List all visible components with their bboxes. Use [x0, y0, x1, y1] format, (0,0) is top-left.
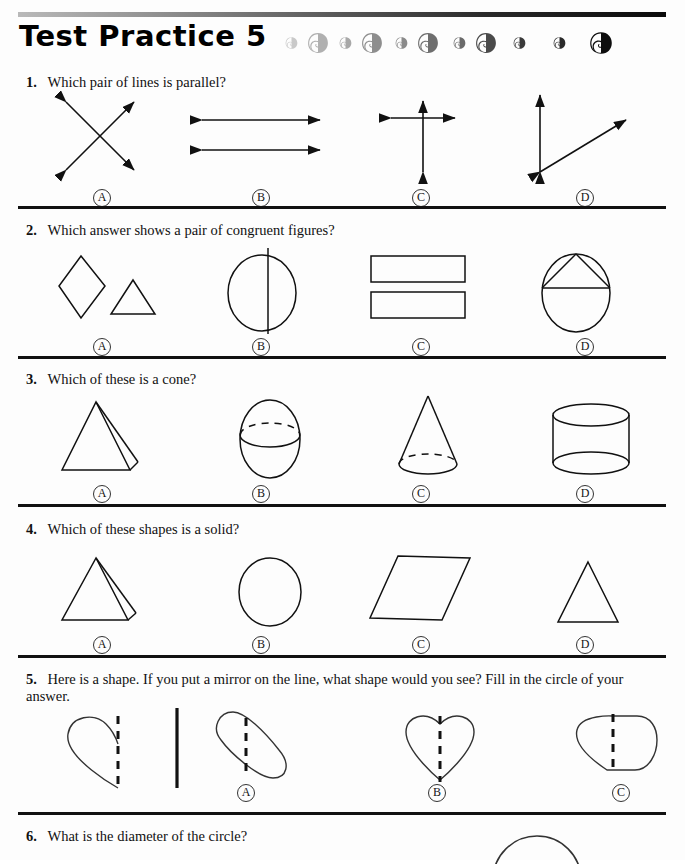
q4-choice-c-label[interactable]: C — [411, 635, 431, 652]
question-2-number: 2. — [26, 222, 37, 238]
q2-choice-c-label[interactable]: C — [411, 337, 431, 354]
question-2-text: 2. Which answer shows a pair of congruen… — [26, 222, 626, 239]
question-5-text: 5. Here is a shape. If you put a mirror … — [26, 671, 664, 705]
q3-choice-a-figure — [58, 400, 148, 478]
spiral-shell-icon — [513, 37, 526, 50]
q1-choice-a-label[interactable]: A — [92, 188, 112, 205]
question-1-text: 1. Which pair of lines is parallel? — [26, 74, 626, 91]
q4-choice-a-figure — [58, 556, 148, 628]
page-title: Test Practice 5 — [19, 19, 267, 53]
q5-choice-b-label[interactable]: B — [427, 783, 447, 800]
question-6-text: 6. What is the diameter of the circle? — [26, 828, 476, 845]
q2-choice-d-figure — [533, 252, 619, 334]
question-6-prompt: What is the diameter of the circle? — [48, 828, 248, 844]
spiral-shell-icon — [395, 37, 408, 50]
q3-choice-a-label[interactable]: A — [92, 484, 112, 501]
q2-choice-c-figure — [369, 254, 469, 322]
q3-choice-d-label[interactable]: D — [575, 484, 595, 501]
q5-choice-a-label[interactable]: A — [236, 783, 256, 800]
q2-choice-d-label[interactable]: D — [575, 337, 595, 354]
spiral-shell-icon — [285, 37, 298, 50]
q1-choice-b-figure — [196, 112, 326, 158]
section-rule-3 — [18, 504, 666, 507]
q3-choice-b-figure — [230, 398, 310, 480]
question-5-number: 5. — [26, 671, 37, 687]
spiral-shell-icon — [339, 37, 352, 50]
q3-choice-c-label[interactable]: C — [411, 484, 431, 501]
q4-choice-c-figure — [366, 554, 476, 626]
q1-choice-a-figure — [58, 96, 150, 178]
q1-choice-d-figure — [528, 90, 638, 178]
q4-choice-a-label[interactable]: A — [92, 635, 112, 652]
q5-choice-b-figure — [400, 706, 480, 786]
q3-choice-c-figure — [385, 394, 471, 478]
spiral-shell-icon — [475, 32, 497, 54]
q5-vertical-divider — [174, 706, 180, 790]
q4-choice-d-label[interactable]: D — [575, 635, 595, 652]
question-3-prompt: Which of these is a cone? — [48, 371, 197, 387]
question-6-number: 6. — [26, 828, 37, 844]
spiral-shell-icon — [553, 37, 566, 50]
question-1-prompt: Which pair of lines is parallel? — [48, 74, 226, 90]
q1-choice-b-label[interactable]: B — [251, 188, 271, 205]
section-rule-4 — [18, 655, 666, 658]
q3-choice-b-label[interactable]: B — [251, 484, 271, 501]
spiral-decoration-row — [285, 24, 680, 62]
q2-choice-a-figure — [55, 252, 165, 324]
q1-choice-c-label[interactable]: C — [411, 188, 431, 205]
question-1-number: 1. — [26, 74, 37, 90]
spiral-shell-icon — [589, 31, 613, 55]
q6-circle-figure — [492, 834, 582, 864]
q1-choice-d-label[interactable]: D — [575, 188, 595, 205]
spiral-shell-icon — [361, 32, 383, 54]
q2-choice-a-label[interactable]: A — [92, 337, 112, 354]
header-gradient-bar — [18, 12, 666, 17]
spiral-shell-icon — [307, 32, 329, 54]
question-4-text: 4. Which of these shapes is a solid? — [26, 521, 626, 538]
q4-choice-b-figure — [232, 556, 308, 628]
question-5-prompt: Here is a shape. If you put a mirror on … — [26, 671, 623, 704]
spiral-shell-icon — [453, 37, 466, 50]
q2-choice-b-label[interactable]: B — [251, 337, 271, 354]
section-rule-5 — [18, 812, 666, 815]
q2-choice-b-figure — [222, 246, 308, 336]
q3-choice-d-figure — [548, 402, 634, 478]
q4-choice-d-figure — [548, 560, 628, 626]
question-3-text: 3. Which of these is a cone? — [26, 371, 626, 388]
q5-choice-a-figure — [205, 706, 297, 788]
question-4-number: 4. — [26, 521, 37, 537]
question-4-prompt: Which of these shapes is a solid? — [48, 521, 240, 537]
question-2-prompt: Which answer shows a pair of congruent f… — [48, 222, 335, 238]
q5-choice-c-figure — [565, 708, 661, 780]
question-3-number: 3. — [26, 371, 37, 387]
spiral-shell-icon — [417, 32, 439, 54]
section-rule-2 — [18, 356, 666, 359]
q1-choice-c-figure — [383, 96, 463, 178]
section-rule-1 — [18, 206, 666, 209]
q5-choice-c-label[interactable]: C — [611, 783, 631, 800]
q4-choice-b-label[interactable]: B — [251, 635, 271, 652]
q5-stimulus-figure — [60, 710, 136, 792]
